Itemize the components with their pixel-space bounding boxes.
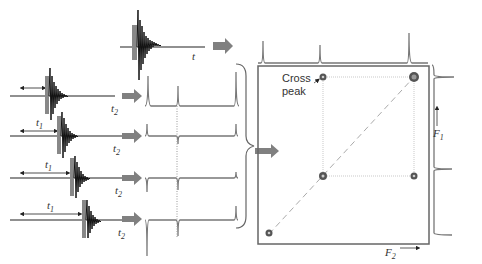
diagonal bbox=[269, 77, 414, 234]
f2-projection bbox=[258, 33, 428, 63]
pulse-block bbox=[132, 25, 137, 60]
nmr-2d-diagram: t t2 t1 t2 t1 t2 t1 t2 bbox=[0, 0, 482, 264]
cross-peak bbox=[411, 173, 418, 180]
top-arrow bbox=[213, 38, 233, 54]
peak bbox=[266, 230, 273, 237]
f2-label: F2 bbox=[384, 246, 396, 261]
cross-peak-label: peak bbox=[282, 85, 306, 97]
cross-peak bbox=[320, 74, 327, 81]
t1-label: t1 bbox=[36, 116, 43, 131]
t2-label: t2 bbox=[118, 226, 125, 241]
t2-label: t2 bbox=[111, 102, 118, 117]
t1-label: t1 bbox=[47, 199, 54, 214]
cosy-plot: Cross peak F1 F2 bbox=[258, 33, 454, 261]
t2-label: t2 bbox=[115, 184, 122, 199]
fid-row-2: t1 t2 bbox=[10, 112, 142, 158]
cross-peak-label: Cross bbox=[282, 72, 311, 84]
t2-label: t2 bbox=[113, 142, 120, 157]
fid-row-1: t2 bbox=[10, 68, 142, 120]
fid-row-3: t1 t2 bbox=[10, 156, 142, 199]
spectra-stack bbox=[145, 72, 239, 256]
fid-row-4: t1 t2 bbox=[10, 199, 142, 241]
peak bbox=[409, 72, 419, 82]
top-fid: t bbox=[120, 10, 205, 80]
top-fid-time-label: t bbox=[192, 50, 196, 62]
t1-label: t1 bbox=[45, 158, 52, 173]
f1-projection bbox=[432, 65, 454, 235]
peak bbox=[319, 172, 327, 180]
brace bbox=[236, 64, 254, 228]
